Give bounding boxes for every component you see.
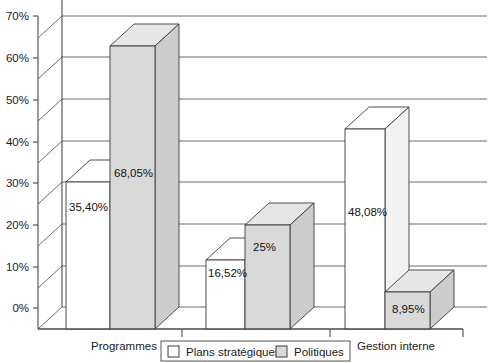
chart-canvas: 70% 60% 50% 40% 30% 20% 10% 0% [0,0,491,363]
bar-side-face [155,24,179,329]
y-tick-label: 40% [6,136,29,148]
y-tick-labels: 70% 60% 50% 40% 30% 20% 10% 0% [6,10,29,314]
x-category-label: Programmes [91,340,157,352]
depth-20 [38,224,62,246]
depth-0 [38,307,62,329]
y-tick-label: 0% [12,302,29,314]
y-tick-label: 50% [6,94,29,106]
bar-front-face [110,46,155,329]
bar-chart: 70% 60% 50% 40% 30% 20% 10% 0% [0,0,491,363]
bar-front-face [345,129,385,329]
depth-10 [38,266,62,288]
bar-side-face [290,203,314,329]
y-tick-label: 20% [6,219,29,231]
legend-item-politiques[interactable]: Politiques [276,346,344,358]
y-tick-label: 60% [6,52,29,64]
legend-swatch-plans-strategiques [168,346,179,357]
bar-value-label: 25% [253,241,276,253]
bar-value-label: 8,95% [392,303,425,315]
y-tick-label: 30% [6,177,29,189]
bar-value-label: 48,08% [348,206,387,218]
bar-value-label: 16,52% [208,267,247,279]
legend-swatch-politiques [276,346,287,357]
bar-group-relation-environnement: 16,52% 25% [206,203,314,329]
x-category-label: Gestion interne [357,340,435,352]
depth-50 [38,99,62,121]
depth-30 [38,182,62,204]
bar-value-label: 35,40% [69,201,108,213]
legend-label: Politiques [294,346,344,358]
depth-60 [38,57,62,79]
depth-70 [38,16,62,38]
bar-politiques-relation[interactable] [245,203,314,329]
y-tick-label: 70% [6,10,29,22]
bar-value-label: 68,05% [114,167,153,179]
grid-left-wall [38,16,62,329]
legend: Plans stratégiques Politiques [161,341,350,361]
y-tick-label: 10% [6,261,29,273]
bar-group-programmes: 35,40% 68,05% [66,24,179,329]
depth-40 [38,141,62,163]
bar-group-gestion-interne: 48,08% 8,95% [345,107,454,329]
legend-label: Plans stratégiques [186,346,281,358]
